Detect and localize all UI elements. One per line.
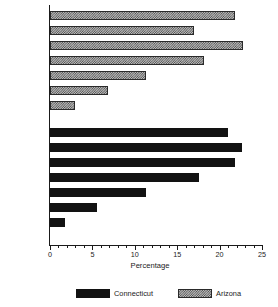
x-tick-minor (203, 245, 204, 248)
x-tick-minor (143, 245, 144, 248)
x-tick-label: 5 (82, 251, 102, 259)
x-tick-minor (109, 245, 110, 248)
x-tick-minor (152, 245, 153, 248)
x-tick-minor (237, 245, 238, 248)
bar-arizona-2 (50, 41, 243, 50)
x-tick-minor (228, 245, 229, 248)
legend-label-connecticut: Connecticut (114, 288, 153, 299)
legend-label-arizona: Arizona (216, 288, 241, 299)
bar-arizona-5 (50, 86, 108, 95)
legend-swatch-connecticut (76, 289, 110, 298)
bar-arizona-4 (50, 71, 146, 80)
bar-arizona-6 (50, 101, 75, 110)
x-tick-minor (245, 245, 246, 248)
bar-connecticut-5 (50, 203, 97, 212)
x-tick-minor (101, 245, 102, 248)
chart-legend: Connecticut Arizona (0, 288, 278, 302)
bar-connecticut-2 (50, 158, 235, 167)
plot-area: Very great65432NoneVery great65432None 0… (0, 0, 278, 307)
legend-swatch-arizona (178, 289, 212, 298)
x-tick-minor (254, 245, 255, 248)
x-tick-minor (67, 245, 68, 248)
x-tick-label: 0 (40, 251, 60, 259)
x-tick-minor (84, 245, 85, 248)
x-tick-minor (186, 245, 187, 248)
bar-connecticut-4 (50, 188, 146, 197)
x-tick-label: 15 (167, 251, 187, 259)
bar-arizona-3 (50, 56, 204, 65)
x-tick-label: 25 (252, 251, 272, 259)
x-axis-title-label: Percentage (131, 261, 170, 270)
x-tick-minor (160, 245, 161, 248)
x-axis-line (49, 245, 262, 246)
percentage-bar-chart: Very great65432NoneVery great65432None 0… (0, 0, 278, 307)
x-tick-minor (75, 245, 76, 248)
bar-arizona-1 (50, 26, 194, 35)
x-tick-label: 10 (125, 251, 145, 259)
x-tick-label: 20 (210, 251, 230, 259)
x-tick-minor (169, 245, 170, 248)
bar-connecticut-6 (50, 218, 65, 227)
bar-connecticut-3 (50, 173, 199, 182)
bar-connecticut-0 (50, 128, 228, 137)
x-tick-minor (211, 245, 212, 248)
x-tick-minor (118, 245, 119, 248)
x-axis-title: Percentage (0, 261, 278, 270)
x-tick-minor (58, 245, 59, 248)
bar-connecticut-1 (50, 143, 242, 152)
bar-arizona-0 (50, 11, 235, 20)
x-tick-minor (194, 245, 195, 248)
x-tick-minor (126, 245, 127, 248)
